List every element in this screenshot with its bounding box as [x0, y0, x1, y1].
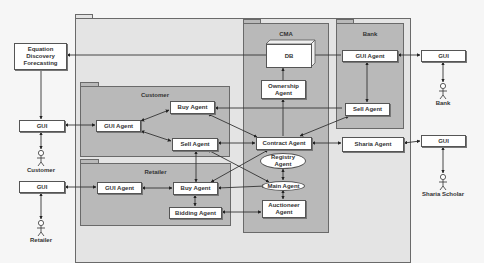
customer-sell-agent-box[interactable]: Sell Agent [172, 138, 218, 151]
bank-actor-label: Bank [418, 100, 468, 106]
customer-gui-agent-box[interactable]: GUI Agent [96, 120, 141, 132]
bank-sell-agent-box[interactable]: Sell Agent [345, 103, 390, 116]
sharia-gui-box[interactable]: GUI [421, 135, 466, 147]
registry-agent-ellipse[interactable]: Registry Agent [260, 153, 306, 169]
bank-gui-box[interactable]: GUI [421, 50, 466, 62]
bank-gui-agent-box[interactable]: GUI Agent [342, 50, 398, 62]
auctioneer-agent-box[interactable]: Auctioneer Agent [262, 200, 306, 218]
customer-buy-agent-box[interactable]: Buy Agent [170, 101, 215, 114]
sharia-scholar-actor-label: Sharia Scholar [413, 191, 473, 197]
retailer-actor-label: Retailer [16, 237, 66, 243]
sharia-agent-box[interactable]: Sharia Agent [342, 137, 404, 152]
retailer-gui-agent-box[interactable]: GUI Agent [97, 182, 142, 194]
ownership-agent-box[interactable]: Ownership Agent [261, 80, 306, 99]
db-box[interactable]: DB [266, 44, 312, 68]
customer-actor-label: Customer [16, 167, 66, 173]
main-agent-ellipse[interactable]: Main Agent [262, 181, 305, 191]
retailer-buy-agent-box[interactable]: Buy Agent [173, 182, 218, 195]
customer-gui-box[interactable]: GUI [19, 120, 65, 132]
bidding-agent-box[interactable]: Bidding Agent [169, 207, 222, 219]
equation-discovery-forecasting-box[interactable]: Equation Discovery Forecasting [14, 43, 67, 70]
retailer-gui-box[interactable]: GUI [19, 181, 65, 193]
contract-agent-box[interactable]: Contract Agent [256, 137, 312, 150]
